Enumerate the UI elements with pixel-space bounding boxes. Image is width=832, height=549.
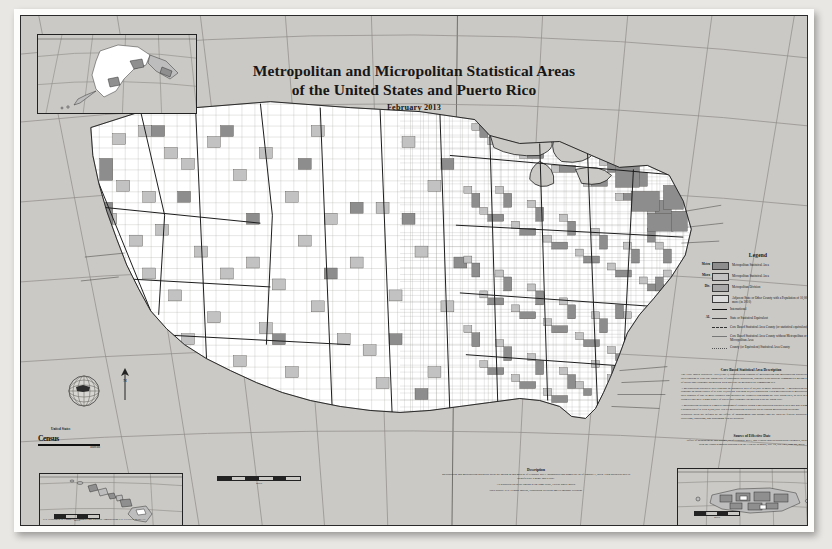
bottom-credit: U.S. Department of Commerce Economics an… [43,518,145,521]
description-paragraph: A metropolitan statistical area contains… [681,387,808,402]
source-text: Office of Management and Budget, as of F… [685,439,808,447]
legend-item-micro: Micro Micropolitan Statistical Area [697,273,808,281]
legend-item-cbsa: Core Based Statistical Area County (or s… [697,324,808,330]
legend-code [697,345,712,346]
legend-line-international [712,307,727,313]
map-neatline: Metropolitan and Micropolitan Statistica… [20,15,808,526]
legend-item-cbsa-no-area: Core Based Statistical Area County witho… [697,333,808,342]
legend-swatch-micro [712,273,729,281]
legend-swatch-adjacent [712,295,729,303]
legend-code: Metro [697,262,712,266]
gulf-note-line: Data source: U.S. Census Bureau, Populat… [441,489,631,493]
legend-line-state [712,316,727,322]
legend-heading: Legend [697,252,808,258]
legend-line-county [712,345,727,351]
logo-line-3: Bureau [38,445,100,449]
legend-code: Div. [697,284,712,288]
gulf-note-line: Metropolitan and micropolitan statistica… [441,473,631,481]
description-paragraph: The Core Based Statistical Area (CBSA) c… [681,373,808,384]
description-heading: Core Based Statistical Area Description [681,368,808,372]
legend-item-county: County (or Equivalent) Statistical Area … [697,345,808,351]
description-paragraph: Statistical areas are defined by the Off… [681,413,808,421]
globe-locator-icon [67,374,101,408]
title-line-2: of the United States and Puerto Rico [194,81,634,100]
gulf-note-line: All statistical areas are shown at the s… [441,483,631,487]
logo-wordmark: Census [38,431,100,443]
legend-label: County (or Equivalent) Statistical Area … [730,345,808,350]
legend-label: Core Based Statistical Area County (or s… [730,324,808,329]
map-sheet: Metropolitan and Micropolitan Statistica… [14,9,814,532]
puerto-rico-inset: Miles Metropolitan and Micropolitan Stat… [677,468,808,526]
gulf-note-block: Description Metropolitan and micropolita… [441,468,631,494]
legend: Legend Metro Metropolitan Statistical Ar… [697,252,808,354]
legend-swatch-metro [712,262,729,270]
legend-item-metro: Metro Metropolitan Statistical Area [697,262,808,270]
map-title-block: Metropolitan and Micropolitan Statistica… [194,62,634,112]
logo-word: Census [38,434,59,443]
svg-text:N: N [123,378,127,383]
description-paragraph: A metropolitan division is a smaller gro… [681,404,808,412]
legend-code [697,333,712,334]
puerto-rico-scale-bar: Miles [694,511,740,519]
legend-item-international: International [697,306,808,312]
legend-label: Metropolitan Statistical Area [732,262,808,267]
gulf-note-heading: Description [441,468,631,472]
legend-item-division: Div. Metropolitan Division [697,284,808,292]
legend-item-adjacent: Adjacent State or Other County with a Po… [697,295,808,304]
title-line-1: Metropolitan and Micropolitan Statistica… [194,62,634,81]
legend-label: Core Based Statistical Area County witho… [730,333,808,342]
census-bureau-logo: United States Census Bureau [38,427,100,449]
source-heading: Source of Effective Date [685,434,808,438]
legend-code [697,295,712,296]
legend-label: Metropolitan Division [732,284,808,289]
puerto-rico-scale-unit: Miles [694,516,740,519]
north-arrow-icon: N [117,368,133,402]
title-date: February 2013 [194,103,634,112]
legend-code [697,306,712,307]
legend-label: State or Statistical Equivalent [730,315,808,320]
description-block: Core Based Statistical Area Description … [681,368,808,423]
source-block: Source of Effective Date Office of Manag… [685,434,808,449]
legend-code: Micro [697,273,712,277]
legend-code [697,324,712,325]
legend-code: AL [697,315,712,319]
legend-line-cbsa [712,325,727,331]
main-scale-unit: Miles [217,482,301,485]
legend-label: Micropolitan Statistical Area [732,273,808,278]
legend-item-state: AL State or Statistical Equivalent [697,315,808,321]
alaska-inset [37,34,197,114]
legend-label: Adjacent State or Other County with a Po… [732,295,808,304]
legend-label: International [730,306,808,311]
map-page: Metropolitan and Micropolitan Statistica… [0,0,832,549]
main-scale-bar: Miles [217,476,301,485]
legend-line-cbsa-alt [712,334,727,340]
legend-swatch-division [712,284,729,292]
